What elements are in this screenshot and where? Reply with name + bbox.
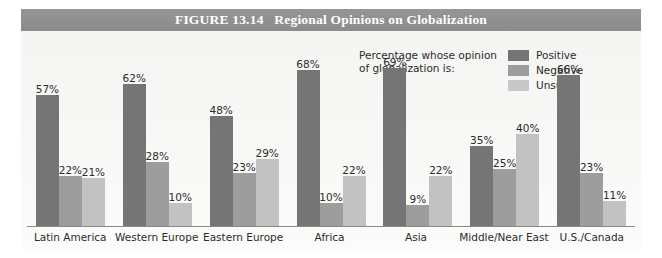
bar-value-label: 11%	[603, 190, 626, 201]
x-axis-label-list: Latin AmericaWestern EuropeEastern Europ…	[27, 229, 635, 247]
bar-rect-unsure	[429, 176, 452, 226]
bar-group: 48%23%29%	[201, 33, 288, 226]
bar-value-label: 29%	[255, 148, 278, 159]
bar-positive[interactable]: 69%	[383, 68, 406, 226]
bar-unsure[interactable]: 40%	[516, 134, 539, 226]
bar-rect-positive	[297, 70, 320, 226]
bar-cluster: 66%23%11%	[557, 75, 626, 226]
bar-cluster: 57%22%21%	[36, 95, 105, 226]
bar-value-label: 10%	[319, 192, 342, 203]
bar-negative[interactable]: 23%	[233, 173, 256, 226]
bar-group: 62%28%10%	[114, 33, 201, 226]
bar-negative[interactable]: 9%	[406, 205, 429, 226]
bar-unsure[interactable]: 22%	[343, 176, 366, 226]
bar-cluster: 69%9%22%	[383, 68, 452, 226]
chart-plot-area: Percentage whose opinion of globalizatio…	[21, 31, 641, 249]
bar-positive[interactable]: 68%	[297, 70, 320, 226]
bar-cluster: 68%10%22%	[297, 70, 366, 226]
bar-value-label: 22%	[59, 165, 82, 176]
x-axis-label: Eastern Europe	[200, 229, 286, 247]
bar-value-label: 28%	[146, 151, 169, 162]
bar-rect-negative	[493, 169, 516, 226]
figure-title: FIGURE 13.14 Regional Opinions on Global…	[175, 12, 487, 28]
bar-unsure[interactable]: 11%	[603, 201, 626, 226]
bar-negative[interactable]: 25%	[493, 169, 516, 226]
bar-unsure[interactable]: 22%	[429, 176, 452, 226]
bar-value-label: 9%	[410, 194, 427, 205]
bar-rect-positive	[470, 146, 493, 226]
bar-value-label: 22%	[429, 165, 452, 176]
chart-baseline-axis	[27, 226, 635, 227]
bar-value-label: 23%	[232, 162, 255, 173]
bar-positive[interactable]: 57%	[36, 95, 59, 226]
bar-unsure[interactable]: 21%	[82, 178, 105, 226]
figure-title-band: FIGURE 13.14 Regional Opinions on Global…	[21, 9, 641, 31]
bar-value-label: 25%	[493, 158, 516, 169]
bar-rect-unsure	[516, 134, 539, 226]
bar-negative[interactable]: 28%	[146, 162, 169, 226]
bar-negative[interactable]: 22%	[59, 176, 82, 226]
bar-group: 69%9%22%	[374, 33, 461, 226]
bar-rect-negative	[233, 173, 256, 226]
x-axis-label: Middle/Near East	[459, 229, 548, 247]
bar-value-label: 69%	[383, 57, 406, 68]
x-axis-label: Western Europe	[113, 229, 199, 247]
bar-positive[interactable]: 66%	[557, 75, 580, 226]
bar-value-label: 66%	[557, 64, 580, 75]
bar-rect-negative	[59, 176, 82, 226]
bar-cluster: 48%23%29%	[210, 116, 279, 226]
bar-rect-positive	[36, 95, 59, 226]
bar-rect-negative	[320, 203, 343, 226]
bar-value-label: 35%	[470, 135, 493, 146]
bar-rect-unsure	[82, 178, 105, 226]
bar-value-label: 68%	[296, 59, 319, 70]
bar-group-list: 57%22%21%62%28%10%48%23%29%68%10%22%69%9…	[27, 33, 635, 226]
bar-value-label: 62%	[123, 73, 146, 84]
x-axis-label: Asia	[373, 229, 459, 247]
bar-rect-negative	[406, 205, 429, 226]
x-axis-label: Africa	[286, 229, 372, 247]
bar-value-label: 22%	[342, 165, 365, 176]
bar-cluster: 62%28%10%	[123, 84, 192, 226]
bar-rect-unsure	[256, 159, 279, 226]
bar-group: 35%25%40%	[461, 33, 548, 226]
bar-rect-positive	[383, 68, 406, 226]
figure-panel: FIGURE 13.14 Regional Opinions on Global…	[21, 9, 641, 249]
bar-value-label: 10%	[169, 192, 192, 203]
bar-rect-negative	[580, 173, 603, 226]
bar-cluster: 35%25%40%	[470, 134, 539, 226]
bar-value-label: 48%	[209, 105, 232, 116]
bar-value-label: 40%	[516, 123, 539, 134]
bar-unsure[interactable]: 10%	[169, 203, 192, 226]
bar-negative[interactable]: 10%	[320, 203, 343, 226]
bar-positive[interactable]: 35%	[470, 146, 493, 226]
bar-value-label: 57%	[36, 84, 59, 95]
x-axis-label: U.S./Canada	[549, 229, 635, 247]
bar-rect-negative	[146, 162, 169, 226]
bar-rect-positive	[557, 75, 580, 226]
bar-rect-positive	[123, 84, 146, 226]
bar-group: 57%22%21%	[27, 33, 114, 226]
bar-rect-unsure	[603, 201, 626, 226]
bar-unsure[interactable]: 29%	[256, 159, 279, 226]
bar-group: 66%23%11%	[548, 33, 635, 226]
bar-positive[interactable]: 62%	[123, 84, 146, 226]
bar-negative[interactable]: 23%	[580, 173, 603, 226]
bar-rect-positive	[210, 116, 233, 226]
bar-value-label: 23%	[580, 162, 603, 173]
bar-rect-unsure	[343, 176, 366, 226]
bar-positive[interactable]: 48%	[210, 116, 233, 226]
bar-group: 68%10%22%	[288, 33, 375, 226]
bar-rect-unsure	[169, 203, 192, 226]
x-axis-label: Latin America	[27, 229, 113, 247]
bar-value-label: 21%	[82, 167, 105, 178]
